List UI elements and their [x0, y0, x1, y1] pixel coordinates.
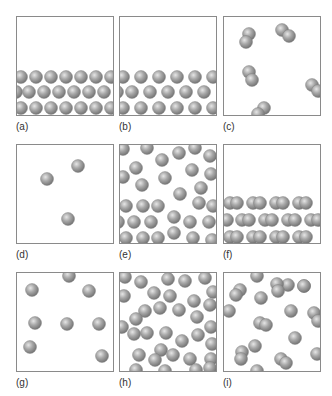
atom-sphere — [173, 147, 186, 160]
molecule-atom-sphere — [240, 36, 253, 49]
atom-sphere — [189, 102, 202, 115]
atom-sphere — [75, 102, 88, 115]
atom-sphere — [173, 304, 186, 317]
atom-sphere — [148, 287, 161, 300]
atom-sphere — [72, 160, 85, 173]
atom-sphere — [204, 299, 217, 312]
panel-label-c: (c) — [223, 121, 235, 132]
molecule-atom-sphere — [235, 353, 248, 366]
atom-sphere — [128, 328, 141, 341]
atom-sphere — [171, 71, 184, 84]
atom-sphere — [38, 86, 51, 99]
atom-sphere — [30, 71, 43, 84]
atom-sphere — [160, 327, 173, 340]
molecule-atom-sphere — [243, 214, 256, 227]
atom-sphere — [105, 102, 115, 115]
molecule-atom-sphere — [272, 285, 285, 298]
panel-label-f: (f) — [223, 249, 232, 260]
atom-sphere — [285, 305, 298, 318]
atom-sphere — [207, 200, 218, 213]
panel-label-g: (g) — [16, 377, 28, 388]
atom-sphere — [128, 216, 141, 229]
atom-sphere — [206, 234, 218, 245]
molecule-atom-sphere — [246, 74, 259, 87]
panel-d — [16, 144, 114, 244]
atom-sphere — [17, 71, 28, 84]
atom-sphere — [289, 332, 302, 345]
molecule-atom-sphere — [289, 214, 302, 227]
atom-sphere — [180, 86, 193, 99]
atom-sphere — [251, 273, 264, 283]
atom-sphere — [120, 86, 124, 99]
atom-sphere — [30, 102, 43, 115]
atom-sphere — [205, 321, 218, 334]
atom-sphere — [137, 200, 150, 213]
atom-sphere — [130, 313, 143, 326]
panel-a — [16, 16, 114, 116]
atom-sphere — [93, 318, 106, 331]
atom-sphere — [61, 318, 74, 331]
atom-sphere — [90, 102, 103, 115]
atom-sphere — [191, 311, 204, 324]
atom-sphere — [206, 338, 218, 351]
atom-sphere — [159, 172, 172, 185]
molecule-atom-sphere — [298, 280, 311, 293]
atom-sphere — [203, 216, 216, 229]
panel-label-b: (b) — [119, 121, 131, 132]
atom-sphere — [204, 150, 217, 163]
panel-label-d: (d) — [16, 249, 28, 260]
atom-sphere — [68, 86, 81, 99]
atom-sphere — [159, 365, 172, 373]
atom-sphere — [174, 188, 187, 201]
atom-sphere — [17, 102, 28, 115]
atom-sphere — [184, 216, 197, 229]
atom-sphere — [153, 102, 166, 115]
atom-sphere — [126, 86, 139, 99]
atom-sphere — [45, 71, 58, 84]
atom-sphere — [199, 273, 212, 285]
atom-sphere — [136, 179, 149, 192]
panel-f — [223, 144, 321, 244]
molecule-atom-sphere — [231, 231, 244, 244]
atom-sphere — [145, 216, 158, 229]
atom-sphere — [137, 232, 150, 245]
atom-sphere — [120, 232, 133, 245]
panel-c — [223, 16, 321, 116]
atom-sphere — [255, 292, 268, 305]
atom-sphere — [62, 213, 75, 226]
atom-sphere — [176, 335, 189, 348]
atom-sphere — [120, 145, 130, 156]
molecule-atom-sphere — [224, 214, 234, 227]
atom-sphere — [60, 102, 73, 115]
atom-sphere — [144, 86, 157, 99]
atom-sphere — [133, 349, 146, 362]
atom-sphere — [90, 71, 103, 84]
atom-sphere — [156, 154, 169, 167]
atom-sphere — [83, 285, 96, 298]
atom-sphere — [130, 162, 143, 175]
atom-sphere — [120, 290, 131, 303]
atom-sphere — [149, 354, 162, 367]
atom-sphere — [152, 232, 165, 245]
molecule-atom-sphere — [231, 197, 244, 210]
atom-sphere — [162, 86, 175, 99]
atom-sphere — [251, 365, 264, 373]
panel-label-e: (e) — [119, 249, 131, 260]
atom-sphere — [98, 86, 111, 99]
atom-sphere — [41, 173, 54, 186]
atom-sphere — [154, 302, 167, 315]
atom-sphere — [120, 102, 130, 115]
atom-sphere — [60, 71, 73, 84]
atom-sphere — [164, 290, 177, 303]
atom-sphere — [130, 364, 143, 373]
atom-sphere — [83, 86, 96, 99]
atom-sphere — [120, 273, 132, 284]
atom-sphere — [120, 216, 125, 229]
atom-sphere — [75, 71, 88, 84]
molecule-atom-sphere — [283, 30, 296, 43]
atom-sphere — [162, 273, 175, 286]
atom-sphere — [153, 71, 166, 84]
atom-sphere — [189, 71, 202, 84]
panel-label-i: (i) — [223, 377, 232, 388]
atom-sphere — [207, 102, 218, 115]
